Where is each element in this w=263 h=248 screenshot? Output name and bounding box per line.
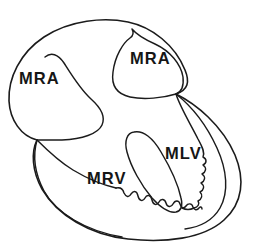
chamber-label-mrv: MRV xyxy=(87,170,127,187)
lower-left-myocardial-wall xyxy=(35,140,122,237)
left-atrium-chamber xyxy=(37,54,103,140)
chamber-label-mra-left: MRA xyxy=(19,70,60,87)
chamber-label-mra-top: MRA xyxy=(130,50,171,67)
cardiac-tracing-drawing xyxy=(0,0,263,248)
outer-heart-contour xyxy=(9,20,241,241)
chamber-label-mlv: MLV xyxy=(165,145,202,162)
right-ventricle-trabeculated-border xyxy=(116,188,202,210)
cardiac-tracing-figure: MRA MRA MLV MRV xyxy=(0,0,263,248)
